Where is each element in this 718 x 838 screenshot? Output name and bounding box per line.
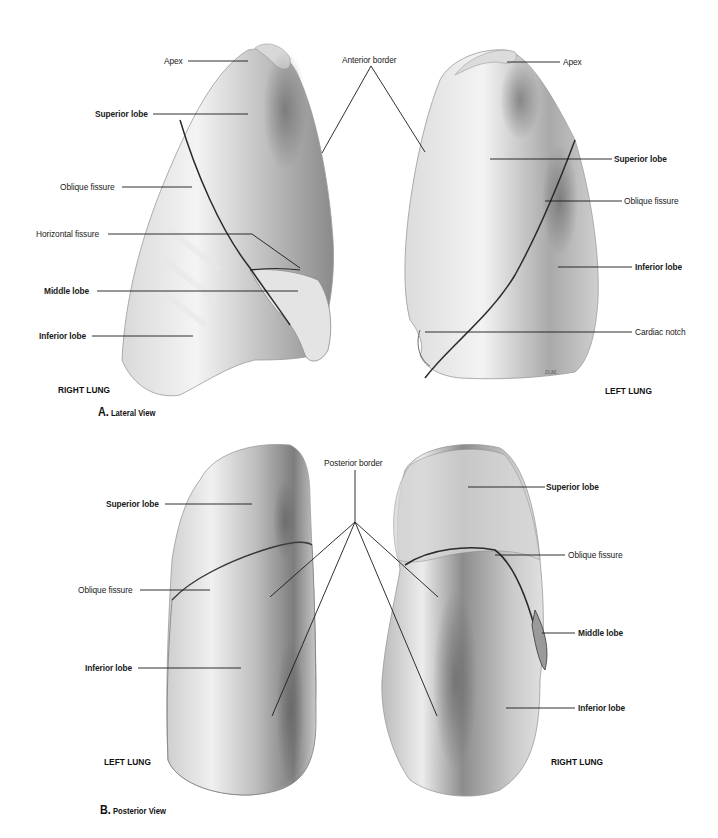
- label-middle-lobe-right: Middle lobe: [44, 285, 89, 296]
- label-inferior-lobe-left: Inferior lobe: [635, 261, 682, 272]
- label-apex-left: Apex: [563, 56, 582, 67]
- label-inferior-lobe-left-posterior: Inferior lobe: [85, 662, 132, 673]
- lung-anatomy-figure: D.M.: [0, 0, 718, 838]
- panel-a-view-name: Lateral View: [111, 408, 156, 418]
- panel-b-letter: B.: [100, 803, 111, 817]
- right-lung-lateral: [122, 44, 334, 396]
- lung-name-right-lateral: RIGHT LUNG: [58, 384, 110, 395]
- left-lung-lateral: D.M.: [405, 50, 598, 379]
- label-apex-right: Apex: [164, 55, 183, 66]
- panel-a-title: A. Lateral View: [98, 405, 155, 419]
- label-cardiac-notch: Cardiac notch: [635, 326, 685, 337]
- lung-name-right-posterior: RIGHT LUNG: [551, 756, 603, 767]
- panel-b-title: B. Posterior View: [100, 803, 166, 817]
- label-oblique-fissure-left-posterior: Oblique fissure: [78, 584, 132, 595]
- label-oblique-fissure-right: Oblique fissure: [60, 181, 114, 192]
- right-lung-posterior: [382, 444, 547, 796]
- lung-name-left-posterior: LEFT LUNG: [104, 756, 151, 767]
- lung-name-left-lateral: LEFT LUNG: [605, 385, 652, 396]
- label-inferior-lobe-right: Inferior lobe: [39, 330, 86, 341]
- label-oblique-fissure-right-posterior: Oblique fissure: [568, 549, 622, 560]
- label-inferior-lobe-right-posterior: Inferior lobe: [578, 702, 625, 713]
- label-anterior-border: Anterior border: [342, 54, 396, 65]
- panel-a-letter: A.: [98, 405, 109, 419]
- label-horizontal-fissure: Horizontal fissure: [36, 228, 99, 239]
- left-lung-posterior: [167, 444, 316, 795]
- panel-b-view-name: Posterior View: [113, 806, 166, 816]
- label-posterior-border: Posterior border: [324, 457, 383, 468]
- label-superior-lobe-right-posterior: Superior lobe: [546, 481, 599, 492]
- label-middle-lobe-right-posterior: Middle lobe: [578, 627, 623, 638]
- label-oblique-fissure-left: Oblique fissure: [624, 195, 678, 206]
- artist-signature: D.M.: [544, 369, 557, 375]
- label-superior-lobe-left: Superior lobe: [614, 153, 667, 164]
- label-superior-lobe-right: Superior lobe: [95, 108, 148, 119]
- label-superior-lobe-left-posterior: Superior lobe: [106, 498, 159, 509]
